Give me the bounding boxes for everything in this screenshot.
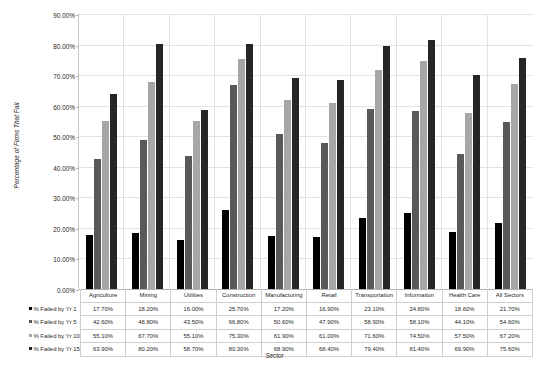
legend-label: % Failed by Yr 10	[34, 333, 80, 339]
table-cell: 74.50%	[397, 329, 442, 343]
y-axis-tick-label: 40.00%	[53, 164, 75, 171]
table-cell: 75.30%	[216, 329, 261, 343]
bar	[457, 154, 464, 289]
table-header-row: AgricultureMiningUtilitiesConstructionMa…	[28, 289, 533, 302]
table-corner-cell	[28, 289, 81, 302]
table-column-header: Health Care	[442, 289, 487, 302]
bar	[449, 232, 456, 289]
bar-group	[488, 14, 533, 289]
bar	[238, 59, 245, 289]
bar	[404, 213, 411, 289]
bar	[321, 143, 328, 289]
legend-swatch-icon	[29, 334, 32, 337]
bar	[292, 78, 299, 289]
bar-group	[124, 14, 169, 289]
bar	[177, 240, 184, 289]
table-cell: 44.10%	[442, 316, 487, 330]
bar	[503, 122, 510, 289]
bar-group	[397, 14, 442, 289]
legend-entry: % Failed by Yr 1	[28, 302, 81, 316]
y-axis-tick-label: 90.00%	[53, 12, 75, 19]
bar	[511, 84, 518, 289]
bar	[193, 121, 200, 289]
bar-group	[170, 14, 215, 289]
bar	[148, 82, 155, 289]
bar	[383, 46, 390, 289]
table-cell: 58.90%	[352, 316, 397, 330]
table-cell: 25.70%	[216, 302, 261, 316]
table-cell: 23.10%	[352, 302, 397, 316]
bar	[519, 58, 526, 289]
table-cell: 24.80%	[397, 302, 442, 316]
legend-label: % Failed by Yr 5	[34, 319, 77, 325]
table-column-header: Construction	[216, 289, 261, 302]
bar	[222, 210, 229, 289]
bar	[367, 109, 374, 289]
table-column-header: Retail	[306, 289, 351, 302]
bar	[268, 236, 275, 289]
bar-group	[215, 14, 260, 289]
table-column-header: Transportation	[352, 289, 397, 302]
table-cell: 67.70%	[126, 329, 171, 343]
bar	[473, 75, 480, 289]
bar	[156, 44, 163, 289]
table-cell: 21.70%	[487, 302, 532, 316]
bar	[94, 159, 101, 289]
y-axis-tick-label: 60.00%	[53, 103, 75, 110]
y-axis-tick-label: 70.00%	[53, 73, 75, 80]
bar-group	[261, 14, 306, 289]
table-cell: 57.50%	[442, 329, 487, 343]
bar	[230, 85, 237, 289]
bar	[132, 233, 139, 289]
bar	[110, 94, 117, 289]
legend-swatch-icon	[29, 320, 32, 323]
bar	[495, 223, 502, 289]
table-row: % Failed by Yr 117.70%18.20%16.00%25.70%…	[28, 302, 533, 316]
bar	[102, 121, 109, 289]
bar	[276, 134, 283, 289]
bar	[465, 113, 472, 289]
bar	[428, 40, 435, 289]
bar	[375, 70, 382, 289]
table-cell: 17.20%	[261, 302, 306, 316]
bar	[420, 61, 427, 289]
table-row: % Failed by Yr 1055.10%67.70%55.10%75.30…	[28, 329, 533, 343]
table-cell: 16.00%	[171, 302, 216, 316]
bar	[284, 100, 291, 289]
table-column-header: Mining	[126, 289, 171, 302]
table-column-header: Information	[397, 289, 442, 302]
table-cell: 18.60%	[442, 302, 487, 316]
bar	[140, 140, 147, 289]
bar	[246, 44, 253, 289]
legend-entry: % Failed by Yr 10	[28, 329, 81, 343]
table-cell: 55.10%	[171, 329, 216, 343]
y-axis-tick-label: 50.00%	[53, 134, 75, 141]
table-cell: 18.20%	[126, 302, 171, 316]
table-cell: 54.60%	[487, 316, 532, 330]
table-cell: 43.50%	[171, 316, 216, 330]
y-axis-tick-label: 20.00%	[53, 225, 75, 232]
bar	[337, 80, 344, 289]
table-cell: 16.90%	[306, 302, 351, 316]
table-column-header: All Sectors	[487, 289, 532, 302]
legend-entry: % Failed by Yr 5	[28, 316, 81, 330]
y-axis-tick-label: 30.00%	[53, 195, 75, 202]
table-cell: 61.00%	[306, 329, 351, 343]
data-table: AgricultureMiningUtilitiesConstructionMa…	[28, 289, 533, 357]
bar	[86, 235, 93, 289]
y-axis-tick-label: 80.00%	[53, 42, 75, 49]
table-cell: 61.90%	[261, 329, 306, 343]
table-column-header: Agriculture	[81, 289, 126, 302]
table-cell: 50.60%	[261, 316, 306, 330]
table-cell: 66.80%	[216, 316, 261, 330]
table-body: % Failed by Yr 117.70%18.20%16.00%25.70%…	[28, 302, 533, 356]
table-cell: 55.10%	[81, 329, 126, 343]
bar-chart: Percentage of Firms That Fail 0.00%10.00…	[0, 0, 549, 380]
bar	[201, 110, 208, 289]
table-cell: 42.60%	[81, 316, 126, 330]
table-column-header: Utilities	[171, 289, 216, 302]
y-axis-title: Percentage of Firms That Fail	[8, 0, 26, 290]
table-row: % Failed by Yr 542.60%48.80%43.50%66.80%…	[28, 316, 533, 330]
x-axis-title: Sector	[0, 352, 549, 359]
bar	[313, 237, 320, 289]
